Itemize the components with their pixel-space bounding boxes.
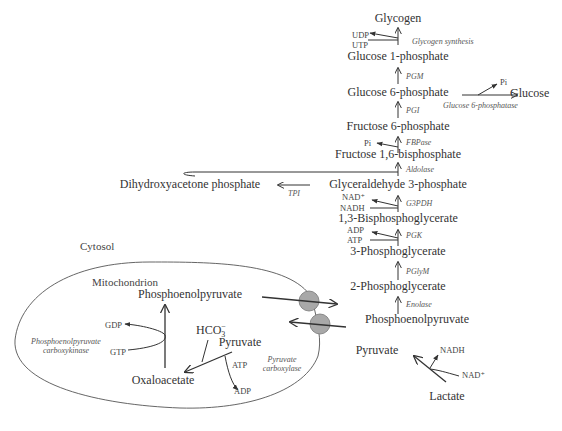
metabolite-1-3-bisphosphoglycerate: 1,3-Bisphosphoglycerate: [338, 211, 458, 225]
metabolite-3-phosphoglycerate: 3-Phosphoglycerate: [350, 244, 445, 258]
cofactor-nad-plus-g3pdh: NAD⁺: [342, 192, 365, 202]
cofactor-nadh-ldh: NADH: [440, 345, 465, 355]
enzyme-pgm: PGM: [405, 72, 425, 81]
enzyme-pgi: PGI: [405, 106, 420, 115]
nadh-output-arrow: [430, 355, 438, 368]
enzyme-pepck-line2: carboxykinase: [43, 346, 90, 355]
arrow-pyruvate-oaa: [185, 352, 232, 372]
metabolite-oxaloacetate: Oxaloacetate: [132, 373, 195, 387]
udp-output-arrow: [370, 33, 398, 38]
cofactor-udp: UDP: [352, 30, 369, 40]
enzyme-pgk: PGK: [405, 231, 423, 240]
metabolite-dhap: Dihydroxyacetone phosphate: [120, 177, 260, 191]
enzyme-pyruvate-carboxylase-line1: Pyruvate: [267, 355, 297, 364]
enzyme-g3pdh: G3PDH: [406, 199, 433, 208]
metabolite-lactate: Lactate: [429, 389, 464, 403]
metabolite-fructose-6-phosphate: Fructose 6-phosphate: [347, 119, 450, 133]
cofactor-gtp: GTP: [110, 347, 126, 357]
cofactor-pi-fbp: Pi: [364, 138, 372, 148]
gtp-gdp-curve: [125, 324, 165, 350]
cofactor-atp-pc: ATP: [232, 360, 247, 370]
metabolite-bicarbonate: HCO3−: [196, 322, 226, 339]
enzyme-glucose-6-phosphatase: Glucose 6-phosphatase: [443, 101, 518, 110]
metabolite-2-phosphoglycerate: 2-Phosphoglycerate: [350, 279, 445, 293]
cofactor-pi-g6p: Pi: [500, 77, 508, 87]
metabolite-glucose: Glucose: [510, 86, 549, 100]
enzyme-pglym: PGlyM: [405, 267, 430, 276]
metabolite-glycogen: Glycogen: [375, 11, 422, 25]
metabolite-glucose-1-phosphate: Glucose 1-phosphate: [348, 49, 449, 63]
cofactor-adp-pgk: ADP: [347, 225, 364, 235]
gluconeogenesis-diagram: Glycogen Glucose 1-phosphate Glucose 6-p…: [0, 0, 562, 431]
bicarbonate-input-line: [202, 340, 208, 362]
enzyme-tpi: TPI: [288, 189, 300, 198]
pi-output-arrow: [478, 84, 497, 95]
compartment-mitochondrion-label: Mitochondrion: [92, 276, 158, 288]
cofactor-adp-pc: ADP: [234, 386, 251, 396]
metabolite-fructose-1-6-bisphosphate: Fructose 1,6-bisphosphate: [335, 147, 461, 161]
metabolite-glyceraldehyde-3-phosphate: Glyceraldehyde 3-phosphate: [329, 177, 467, 191]
enzyme-enolase: Enolase: [405, 300, 432, 309]
adp-output-arrow: [372, 232, 398, 238]
metabolite-phosphoenolpyruvate-cytosol: Phosphoenolpyruvate: [365, 312, 469, 326]
enzyme-pepck-line1: Phosphoenolpyruvate: [30, 337, 101, 346]
nad-output-arrow: [372, 200, 398, 206]
metabolite-phosphoenolpyruvate-mito: Phosphoenolpyruvate: [138, 287, 242, 301]
cofactor-gdp: GDP: [105, 320, 122, 330]
enzyme-fbpase: FBPase: [405, 138, 432, 147]
metabolite-glucose-6-phosphate: Glucose 6-phosphate: [348, 85, 449, 99]
metabolite-pyruvate-cytosol: Pyruvate: [356, 343, 399, 357]
dhap-aldolase-line: [184, 172, 398, 176]
compartment-cytosol-label: Cytosol: [80, 240, 114, 252]
enzyme-glycogen-synthesis: Glycogen synthesis: [412, 37, 474, 46]
cofactor-nad-plus-ldh: NAD⁺: [462, 370, 485, 380]
enzyme-aldolase: Aldolase: [405, 165, 434, 174]
enzyme-pyruvate-carboxylase-line2: carboxylase: [263, 364, 302, 373]
cofactor-atp-pgk: ATP: [347, 235, 362, 245]
cofactor-nadh-g3pdh: NADH: [340, 203, 365, 213]
cofactor-utp: UTP: [352, 40, 368, 50]
